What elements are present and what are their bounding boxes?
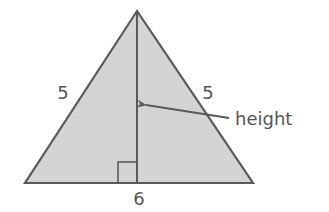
left-side-label: 5: [57, 82, 68, 103]
triangle-diagram: 5 5 6 height: [0, 0, 329, 212]
right-side-label: 5: [202, 82, 213, 103]
height-label: height: [235, 108, 292, 129]
base-label: 6: [133, 188, 144, 209]
